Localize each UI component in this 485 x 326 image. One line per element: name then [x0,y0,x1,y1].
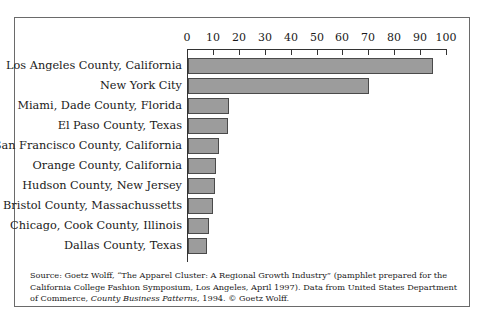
category-label: Hudson County, New Jersey [22,179,182,192]
x-tick-label: 60 [335,31,349,44]
x-tick [239,49,240,55]
bar [188,118,228,134]
x-tick-label: 40 [284,31,298,44]
x-tick [187,49,188,55]
x-tick-label: 80 [387,31,401,44]
x-tick [317,49,318,55]
category-label: El Paso County, Texas [58,119,182,132]
bar [188,218,209,234]
bar [188,238,207,254]
category-label: Bristol County, Massachussetts [3,199,182,212]
category-label: Miami, Dade County, Florida [17,99,182,112]
source-text-end: , 1994. © Goetz Wolff. [197,293,289,303]
category-label: Orange County, California [33,159,182,172]
x-tick-label: 100 [436,31,457,44]
source-italic-title: County Business Patterns [91,293,197,303]
x-tick [265,49,266,55]
x-tick [368,49,369,55]
x-tick [446,49,447,55]
x-tick [213,49,214,55]
category-label: New York City [100,79,182,92]
bar [188,138,219,154]
bar [188,178,215,194]
x-tick-label: 30 [258,31,272,44]
x-tick-label: 20 [232,31,246,44]
bar [188,98,229,114]
category-label: Dallas County, Texas [64,239,182,252]
x-tick-label: 70 [361,31,375,44]
x-tick-label: 0 [184,31,191,44]
x-tick [420,49,421,55]
bar [188,158,216,174]
x-tick-label: 50 [310,31,324,44]
category-label: Chicago, Cook County, Illinois [10,219,182,232]
source-note: Source: Goetz Wolff, “The Apparel Cluste… [30,270,460,305]
category-label: Los Angeles County, California [6,59,182,72]
x-tick-label: 10 [206,31,220,44]
bar [188,58,433,74]
bar [188,198,213,214]
x-tick [394,49,395,55]
category-label: San Francisco County, California [0,139,182,152]
x-tick [342,49,343,55]
bar [188,78,369,94]
x-tick [291,49,292,55]
x-tick-label: 90 [413,31,427,44]
